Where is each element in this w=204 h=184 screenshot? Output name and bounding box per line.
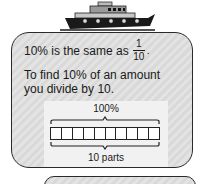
bar-model-diagram: 100% 10 parts bbox=[44, 101, 168, 167]
next-card bbox=[44, 176, 196, 184]
bar-cell bbox=[51, 128, 62, 139]
parts-label: 10 parts bbox=[44, 152, 168, 163]
bar-cell bbox=[95, 128, 106, 139]
bar-cell bbox=[62, 128, 73, 139]
instruction-line-2: you divide by 10. bbox=[24, 82, 160, 96]
bar-cell bbox=[127, 128, 138, 139]
period: . bbox=[147, 45, 150, 56]
total-label: 100% bbox=[44, 103, 168, 114]
fraction-numerator: 1 bbox=[135, 39, 143, 49]
top-brace-icon bbox=[50, 116, 160, 124]
statement-text: 10% is the same as bbox=[24, 44, 129, 58]
bar-cell bbox=[116, 128, 127, 139]
bar-cell bbox=[106, 128, 117, 139]
instruction-line-1: To find 10% of an amount bbox=[24, 68, 160, 82]
ten-part-bar bbox=[50, 127, 160, 140]
fraction-denominator: 10 bbox=[133, 52, 144, 62]
bar-cell bbox=[84, 128, 95, 139]
fraction: 1 10 bbox=[133, 39, 145, 62]
bar-cell bbox=[73, 128, 84, 139]
bar-cell bbox=[138, 128, 149, 139]
percent-fraction-statement: 10% is the same as 1 10 . bbox=[24, 39, 150, 62]
instruction-text: To find 10% of an amount you divide by 1… bbox=[24, 68, 160, 96]
ship-icon bbox=[60, 0, 155, 32]
bottom-brace-icon bbox=[50, 142, 160, 150]
bar-cell bbox=[149, 128, 159, 139]
